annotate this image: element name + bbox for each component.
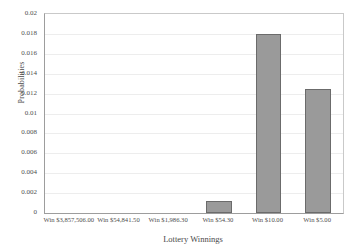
y-tick-label: 0.006 [21,148,37,156]
bar [305,89,331,213]
x-tick-label: Win $3,857,506.00 [44,216,95,223]
y-tick-label: 0.002 [21,188,37,196]
x-axis-tick-labels: Win $3,857,506.00Win $54,841.50Win $1,98… [44,216,342,230]
y-tick-label: 0.008 [21,128,37,136]
y-tick-label: 0.018 [21,29,37,37]
x-tick-label: Win $10.00 [252,216,283,223]
bar [256,34,282,213]
bar [206,201,232,213]
x-tick-label: Win $54,841.50 [97,216,139,223]
y-tick-label: 0.004 [21,168,37,176]
y-tick-label: 0.014 [21,69,37,77]
x-tick-label: Win $54.30 [202,216,233,223]
y-tick-label: 0.01 [25,109,37,117]
y-tick-label: 0.016 [21,49,37,57]
y-tick-label: 0 [34,208,38,216]
bar-chart: Probabilities 00.0020.0040.0060.0080.010… [0,0,361,252]
plot-area [44,13,344,214]
y-tick-label: 0.012 [21,89,37,97]
x-tick-label: Win $5.00 [303,216,331,223]
bar-series [45,14,343,213]
y-axis-tick-labels: 00.0020.0040.0060.0080.010.0120.0140.016… [0,0,42,252]
x-axis-title: Lottery Winnings [44,234,342,244]
y-tick-label: 0.02 [25,9,37,17]
x-tick-label: Win $1,986.30 [149,216,188,223]
